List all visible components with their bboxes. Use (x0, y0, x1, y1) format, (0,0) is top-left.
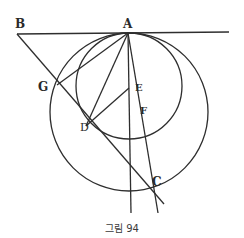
label-b: B (15, 17, 25, 31)
figure-94: A B G D E F C 그림 94 (0, 0, 244, 238)
line-a-vertical (128, 33, 131, 213)
label-e: E (135, 82, 143, 93)
line-d-e (86, 88, 129, 126)
label-a: A (122, 17, 133, 31)
label-c: C (152, 175, 162, 189)
label-f: F (140, 105, 147, 116)
geometry-diagram: A B G D E F C 그림 94 (0, 0, 244, 238)
figure-caption: 그림 94 (105, 223, 139, 234)
label-d: D (80, 121, 89, 134)
label-g: G (38, 80, 48, 94)
line-a-g (57, 33, 128, 85)
